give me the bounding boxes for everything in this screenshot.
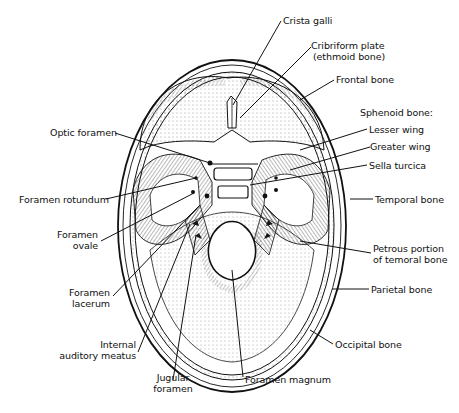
label-cribriform-plate: Cribriform plate — [311, 40, 384, 51]
skull-base-diagram: Crista galli Cribriform plate (ethmoid b… — [0, 0, 459, 413]
label-foramen-lacerum-sub: lacerum — [40, 298, 110, 309]
label-lesser-wing: Lesser wing — [369, 124, 424, 135]
label-parietal-bone: Parietal bone — [371, 284, 432, 295]
label-petrous-portion: Petrous portion — [373, 243, 444, 254]
label-internal-auditory-meatus: Internal — [40, 339, 136, 350]
label-jugular-foramen: Jugular — [148, 372, 198, 383]
label-occipital-bone: Occipital bone — [335, 339, 402, 350]
label-crista-galli: Crista galli — [283, 15, 332, 26]
label-foramen-magnum: Foramen magnum — [245, 374, 331, 385]
label-frontal-bone: Frontal bone — [336, 74, 394, 85]
label-petrous-portion-sub: of temoral bone — [373, 254, 447, 265]
label-cribriform-plate-sub: (ethmoid bone) — [313, 51, 385, 62]
label-sphenoid-bone: Sphenoid bone: — [360, 107, 433, 118]
label-internal-auditory-meatus-sub: auditory meatus — [40, 350, 136, 361]
label-foramen-ovale: Foramen — [40, 229, 98, 240]
label-foramen-rotundum: Foramen rotundum — [19, 194, 109, 205]
label-optic-foramen: Optic foramen — [50, 127, 117, 138]
label-foramen-lacerum: Foramen — [40, 287, 110, 298]
label-greater-wing: Greater wing — [370, 141, 430, 152]
label-foramen-ovale-sub: ovale — [40, 240, 98, 251]
label-sella-turcica: Sella turcica — [369, 160, 426, 171]
label-jugular-foramen-sub: foramen — [148, 383, 198, 394]
label-temporal-bone: Temporal bone — [375, 194, 444, 205]
